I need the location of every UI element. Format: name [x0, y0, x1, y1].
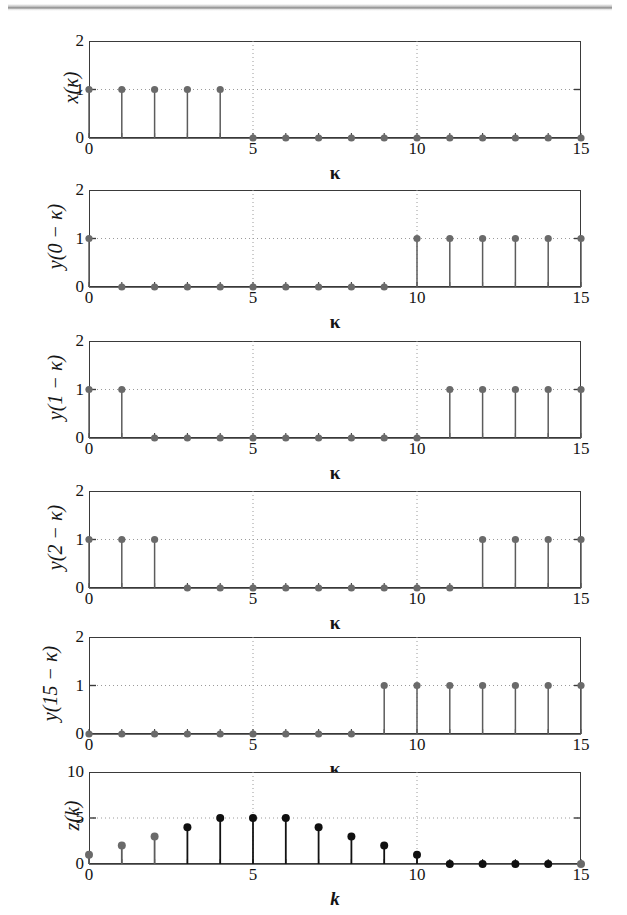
- plot-canvas: [89, 637, 581, 734]
- y-tick-label: 1: [44, 80, 84, 100]
- stem-marker: [348, 730, 355, 737]
- plot-canvas: [89, 341, 581, 438]
- stem-marker: [348, 434, 355, 441]
- stem-marker: [183, 823, 191, 831]
- stem-marker: [381, 682, 388, 689]
- x-tick-label: 15: [573, 735, 590, 755]
- plot-canvas: [89, 190, 581, 287]
- y-tick-label: 2: [44, 481, 84, 501]
- x-tick-label: 0: [85, 735, 94, 755]
- stem-marker: [347, 832, 355, 840]
- stem-marker: [118, 842, 126, 850]
- x-tick-label: 10: [409, 735, 426, 755]
- stem-marker: [479, 235, 486, 242]
- stem-marker: [282, 434, 289, 441]
- stem-marker: [118, 730, 125, 737]
- y-tick-label: 0: [44, 428, 84, 448]
- x-tick-label: 10: [409, 439, 426, 459]
- stem-marker: [545, 536, 552, 543]
- stem-marker: [85, 851, 93, 859]
- stem-marker: [512, 682, 519, 689]
- x-tick-label: 5: [249, 288, 258, 308]
- stem-marker: [512, 536, 519, 543]
- stem-marker: [544, 860, 552, 868]
- stem-marker: [380, 842, 388, 850]
- stem-marker: [545, 682, 552, 689]
- stem-marker: [118, 536, 125, 543]
- stem-marker: [184, 584, 191, 591]
- x-axis-label: k: [89, 888, 581, 910]
- stem-marker: [446, 235, 453, 242]
- x-tick-label: 10: [409, 589, 426, 609]
- stem-marker: [545, 386, 552, 393]
- y-tick-label: 2: [44, 627, 84, 647]
- x-tick-label: 15: [573, 439, 590, 459]
- stem-marker: [85, 386, 92, 393]
- y-tick-label: 2: [44, 31, 84, 51]
- x-axis-label: κ: [89, 462, 581, 484]
- x-tick-label: 0: [85, 139, 94, 159]
- x-tick-label: 15: [573, 288, 590, 308]
- stem-marker: [85, 536, 92, 543]
- x-tick-label: 10: [409, 288, 426, 308]
- stem-marker: [282, 584, 289, 591]
- stem-marker: [315, 730, 322, 737]
- x-tick-label: 10: [409, 139, 426, 159]
- stem-marker: [217, 434, 224, 441]
- y-tick-label: 2: [44, 331, 84, 351]
- stem-marker: [184, 434, 191, 441]
- stem-marker: [479, 386, 486, 393]
- x-tick-label: 0: [85, 865, 94, 885]
- stem-marker: [118, 86, 125, 93]
- stem-marker: [184, 283, 191, 290]
- stem-marker: [282, 730, 289, 737]
- stem-marker: [151, 283, 158, 290]
- y-tick-label: 1: [44, 229, 84, 249]
- stem-marker: [217, 283, 224, 290]
- stem-marker: [184, 730, 191, 737]
- y-tick-label: 1: [44, 380, 84, 400]
- stem-marker: [85, 235, 92, 242]
- stem-marker: [217, 584, 224, 591]
- stem-marker: [446, 134, 453, 141]
- x-axis-label: κ: [89, 612, 581, 634]
- x-tick-label: 5: [249, 139, 258, 159]
- stem-marker: [512, 134, 519, 141]
- x-tick-label: 15: [573, 865, 590, 885]
- stem-marker: [151, 832, 159, 840]
- x-tick-label: 0: [85, 439, 94, 459]
- stem-marker: [381, 283, 388, 290]
- stem-marker: [413, 682, 420, 689]
- stem-marker: [216, 814, 224, 822]
- y-tick-label: 1: [44, 676, 84, 696]
- stem-marker: [381, 584, 388, 591]
- plot-canvas: [89, 772, 581, 864]
- stem-marker: [381, 134, 388, 141]
- y-tick-label: 0: [44, 578, 84, 598]
- stem-marker: [446, 860, 454, 868]
- stem-marker: [545, 134, 552, 141]
- stem-marker: [577, 536, 584, 543]
- y-tick-label: 0: [44, 854, 84, 874]
- stem-marker: [348, 584, 355, 591]
- stem-marker: [315, 434, 322, 441]
- x-axis-label: κ: [89, 311, 581, 333]
- stem-marker: [446, 584, 453, 591]
- x-tick-label: 15: [573, 139, 590, 159]
- stem-marker: [413, 851, 421, 859]
- x-tick-label: 5: [249, 735, 258, 755]
- x-tick-label: 0: [85, 589, 94, 609]
- y-tick-label: 0: [44, 128, 84, 148]
- stem-marker: [184, 86, 191, 93]
- stem-marker: [446, 386, 453, 393]
- y-tick-label: 1: [44, 530, 84, 550]
- stem-marker: [315, 134, 322, 141]
- x-tick-label: 5: [249, 439, 258, 459]
- stem-marker: [577, 235, 584, 242]
- y-tick-label: 0: [44, 724, 84, 744]
- stem-marker: [315, 823, 323, 831]
- stem-marker: [85, 86, 92, 93]
- stem-marker: [512, 386, 519, 393]
- stem-marker: [577, 386, 584, 393]
- stem-marker: [282, 814, 290, 822]
